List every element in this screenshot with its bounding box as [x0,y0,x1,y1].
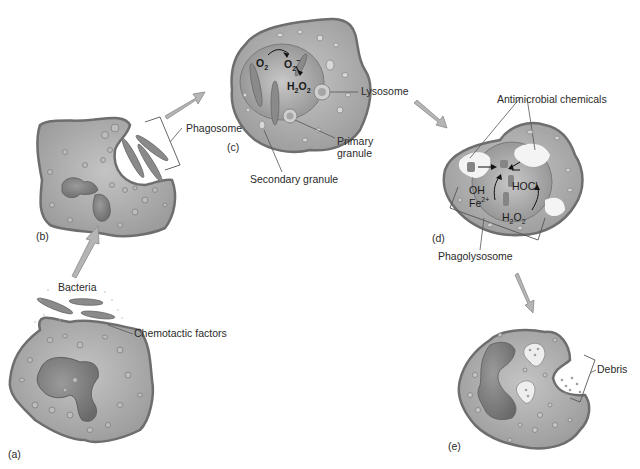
panel-label-d: (d) [432,232,445,244]
chem-fe2: Fe2+ [469,196,489,209]
label-primary-granule-line2: granule [337,148,372,160]
phagocytosis-diagram [0,0,640,469]
label-bacteria: Bacteria [58,282,97,294]
label-phagosome: Phagosome [186,123,242,135]
panel-label-e: (e) [448,440,461,452]
chem-superoxide: O2− [284,57,300,72]
cell-e [459,330,596,448]
arrow-c-to-d [414,100,447,128]
label-primary-granule-line1: Primary [337,136,373,148]
cell-b [37,117,182,236]
cell-a [10,289,153,442]
panel-label-c: (c) [227,141,239,153]
chem-oh: OH [469,184,485,196]
chem-o2: O2 [256,57,268,71]
label-chemotactic-factors: Chemotactic factors [134,328,227,340]
chem-hocl: HOCl [512,180,538,192]
arrow-a-to-b [72,226,99,278]
arrow-d-to-e [515,273,534,313]
label-antimicrobial-chemicals: Antimicrobial chemicals [497,94,607,106]
label-secondary-granule: Secondary granule [250,174,338,186]
label-phagolysosome: Phagolysosome [438,251,513,263]
panel-label-a: (a) [8,448,21,460]
label-lysosome: Lysosome [361,86,408,98]
panel-label-b: (b) [36,230,49,242]
label-debris: Debris [597,364,627,376]
chem-h2o2-d: H2O2 [502,211,526,225]
arrow-b-to-c [165,92,205,119]
cell-d [444,98,583,250]
chem-h2o2-c: H2O2 [287,80,311,94]
